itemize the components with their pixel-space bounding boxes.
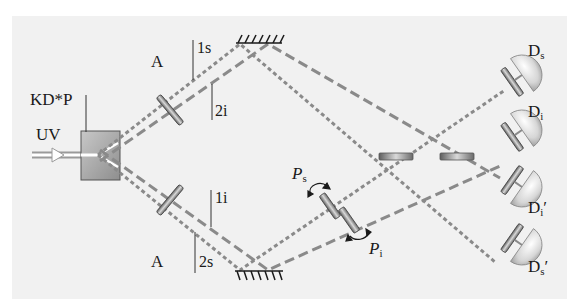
beam-label-2i: 2i — [215, 103, 227, 119]
aperture-top-label: A — [151, 53, 163, 70]
aperture-bottom — [156, 184, 184, 215]
uv-label: UV — [36, 126, 61, 143]
crystal-label: KD*P — [30, 91, 73, 108]
detector-di-label: Di — [528, 103, 543, 122]
diagram: KD*P UV A A 1s 2i 1i 2s Ps Pi Ds Di Di′ … — [0, 0, 571, 306]
beam-label-2s: 2s — [199, 254, 213, 270]
beam-splitter-left — [379, 153, 413, 160]
phase-plate-signal-label: Ps — [292, 165, 307, 184]
beam-splitter-right — [440, 153, 474, 160]
aperture-bottom-label: A — [151, 253, 163, 270]
detector-ds-label: Ds — [528, 42, 545, 61]
optical-setup-drawing — [0, 0, 571, 306]
beam-label-1s: 1s — [197, 40, 211, 56]
bottom-mirror — [235, 271, 283, 280]
phase-plate-idler-label: Pi — [369, 240, 382, 259]
top-mirror — [236, 35, 284, 43]
beam-label-1i: 1i — [215, 190, 227, 206]
phase-plate-idler — [338, 207, 360, 234]
detector-ds-prime-label: Ds′ — [528, 258, 548, 277]
detector-di-prime-label: Di′ — [528, 199, 547, 218]
